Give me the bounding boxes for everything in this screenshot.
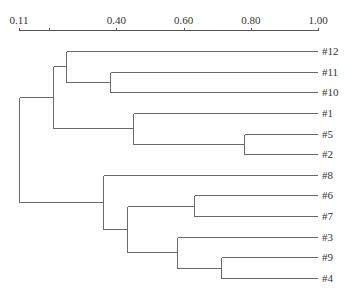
leaf-label: #7: [322, 210, 334, 222]
dendrogram-branches: [20, 52, 319, 279]
axis-tick-label: 0.40: [107, 14, 127, 26]
leaf-label: #4: [322, 272, 334, 284]
leaf-label: #5: [322, 128, 334, 140]
leaf-label: #2: [322, 148, 333, 160]
axis-tick-label: 0.11: [10, 14, 29, 26]
axis-tick-label: 0.60: [174, 14, 194, 26]
leaf-labels: #12#11#10#1#5#2#8#6#7#3#9#4: [322, 45, 339, 284]
dendrogram-chart: 0.110.400.600.801.00 #12#11#10#1#5#2#8#6…: [0, 0, 349, 296]
leaf-label: #1: [322, 107, 333, 119]
leaf-label: #3: [322, 231, 334, 243]
leaf-label: #6: [322, 189, 334, 201]
leaf-label: #12: [322, 45, 339, 57]
leaf-label: #9: [322, 251, 334, 263]
axis-tick-label: 1.00: [308, 14, 328, 26]
axis-tick-label: 0.80: [241, 14, 261, 26]
leaf-label: #10: [322, 86, 339, 98]
leaf-label: #8: [322, 169, 334, 181]
similarity-axis: 0.110.400.600.801.00: [10, 14, 329, 31]
leaf-label: #11: [322, 66, 338, 78]
